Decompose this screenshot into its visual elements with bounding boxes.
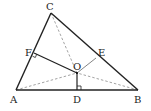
label-O: O (73, 61, 81, 72)
segment-FO (34, 53, 77, 73)
label-F: F (25, 47, 32, 58)
label-C: C (46, 1, 54, 12)
label-A: A (9, 94, 18, 105)
triangle-diagram: C A B D E F O (0, 0, 151, 111)
segment-AC (16, 13, 51, 90)
label-B: B (134, 94, 141, 105)
right-angle-mark-F (33, 54, 37, 57)
label-E: E (98, 47, 105, 58)
segment-AO (16, 73, 77, 90)
label-D: D (73, 94, 81, 105)
segment-CB (51, 13, 138, 90)
point-O (76, 72, 78, 74)
